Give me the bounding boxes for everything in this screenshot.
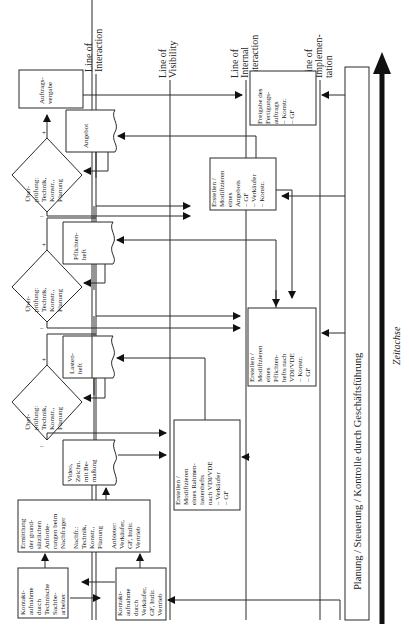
angebot-text: Angebot	[82, 124, 90, 148]
decision-3-minus: –	[39, 212, 44, 220]
svg-text:Nachfr.:Technik,Konstr.,Planun: Nachfr.:Technik,Konstr.,Planung	[72, 525, 104, 549]
decision-1-plus: +	[42, 356, 46, 364]
svg-text:Angebot: Angebot	[82, 124, 90, 148]
ermittlung-nachfrager-text: Nachfr.:Technik,Konstr.,Planung	[72, 525, 104, 549]
line-of-interaction-label: Line ofInteraction	[83, 29, 104, 72]
planning-control-label: Planung / Steuerung / Kontrolle durch Ge…	[352, 352, 363, 590]
angebot-document	[66, 110, 116, 152]
decision-2-plus: +	[42, 241, 46, 249]
service-blueprint-diagram: Line ofInteraction Line ofVisibility Lin…	[0, 0, 409, 635]
decision-3-plus: +	[42, 129, 46, 137]
decision-1-minus: –	[39, 442, 44, 450]
svg-text:Planung / Steuerung / Kontroll: Planung / Steuerung / Kontrolle durch Ge…	[352, 352, 363, 590]
time-axis-label: Zeitachse	[391, 326, 402, 365]
svg-text:Line ofInteraction: Line ofInteraction	[83, 29, 104, 72]
svg-text:Zeitachse: Zeitachse	[391, 326, 402, 365]
decision-2-minus: –	[39, 324, 44, 332]
pflichtenheft-document	[63, 222, 114, 264]
svg-text:Line ofVisibility: Line ofVisibility	[157, 41, 178, 78]
line-of-visibility-label: Line ofVisibility	[157, 41, 178, 78]
time-axis-arrow-icon	[373, 52, 391, 74]
